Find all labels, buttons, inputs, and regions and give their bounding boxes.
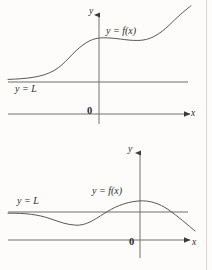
origin-label-bottom: 0	[129, 237, 134, 248]
asymptote-label-bottom: y = L	[17, 196, 39, 206]
asymptote-label-top: y = L	[15, 84, 37, 94]
top-panel	[8, 6, 191, 124]
function-label-bottom: y = f(x)	[92, 186, 122, 196]
function-curve-top	[8, 6, 191, 80]
figure-root: y y = f(x) y = L 0 x y y = f(x) y = L 0 …	[0, 0, 212, 270]
function-label-top: y = f(x)	[106, 26, 136, 36]
x-axis-label-bottom: x	[192, 238, 196, 248]
origin-label-top: 0	[87, 106, 92, 117]
y-axis-label-top: y	[89, 7, 93, 17]
y-axis-label-bottom: y	[128, 145, 132, 155]
x-axis-label-top: x	[191, 109, 195, 119]
limit-asymptote-figure	[0, 0, 212, 270]
